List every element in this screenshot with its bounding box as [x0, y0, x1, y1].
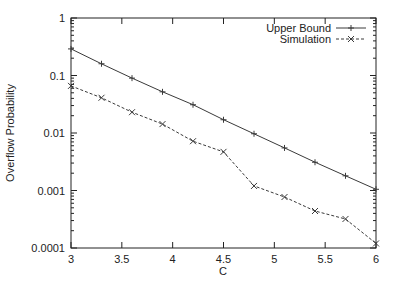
x-axis-title: C [219, 265, 227, 277]
x-tick-label: 3 [68, 253, 74, 265]
x-tick-label: 6 [373, 253, 379, 265]
plot-border [71, 18, 376, 248]
series-line [71, 86, 376, 244]
x-tick-label: 4 [170, 253, 176, 265]
legend-label: Simulation [280, 33, 331, 45]
x-tick-label: 5.5 [318, 253, 333, 265]
y-tick-label: 0.0001 [31, 242, 65, 254]
legend: Upper BoundSimulation [266, 22, 366, 45]
x-tick-label: 5 [271, 253, 277, 265]
series-simulation [68, 83, 379, 247]
line-chart: 0.00010.0010.010.11 33.544.555.56 C Over… [0, 0, 399, 292]
y-tick-label: 0.1 [50, 70, 65, 82]
series-layer [68, 46, 379, 247]
y-axis-title: Overflow Probability [4, 84, 16, 182]
x-axis: 33.544.555.56 [68, 18, 379, 265]
plot-frame [71, 18, 376, 248]
y-tick-label: 1 [59, 12, 65, 24]
series-upper-bound [68, 46, 379, 192]
y-tick-label: 0.001 [37, 185, 65, 197]
y-axis: 0.00010.0010.010.11 [31, 12, 376, 254]
y-tick-label: 0.01 [44, 127, 65, 139]
x-tick-label: 4.5 [216, 253, 231, 265]
x-tick-label: 3.5 [114, 253, 129, 265]
